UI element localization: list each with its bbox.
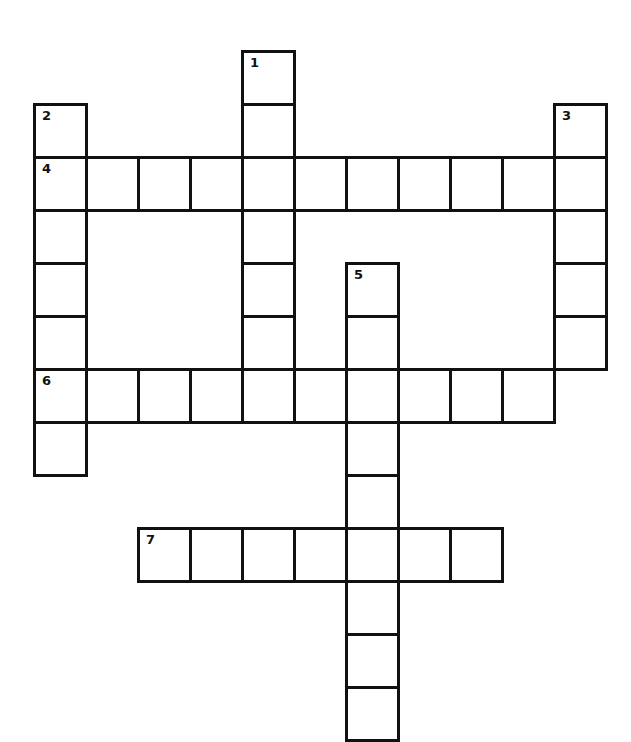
crossword-cell[interactable] bbox=[397, 527, 452, 583]
crossword-cell[interactable] bbox=[553, 262, 608, 318]
crossword-cell[interactable] bbox=[397, 156, 452, 212]
crossword-cell[interactable] bbox=[553, 156, 608, 212]
clue-number: 3 bbox=[562, 109, 571, 122]
crossword-cell[interactable] bbox=[33, 421, 88, 477]
crossword-cell[interactable] bbox=[345, 315, 400, 371]
crossword-cell[interactable] bbox=[397, 368, 452, 424]
crossword-cell[interactable] bbox=[33, 315, 88, 371]
crossword-cell[interactable] bbox=[241, 209, 296, 265]
crossword-cell[interactable] bbox=[85, 156, 140, 212]
crossword-cell[interactable] bbox=[345, 156, 400, 212]
crossword-cell[interactable] bbox=[33, 209, 88, 265]
crossword-cell[interactable] bbox=[449, 527, 504, 583]
crossword-cell[interactable]: 3 bbox=[553, 103, 608, 159]
crossword-cell[interactable] bbox=[85, 368, 140, 424]
crossword-cell[interactable] bbox=[137, 368, 192, 424]
crossword-cell[interactable] bbox=[189, 527, 244, 583]
crossword-cell[interactable] bbox=[553, 209, 608, 265]
crossword-cell[interactable] bbox=[241, 527, 296, 583]
crossword-cell[interactable] bbox=[345, 368, 400, 424]
clue-number: 2 bbox=[42, 109, 51, 122]
crossword-cell[interactable] bbox=[345, 686, 400, 742]
crossword-cell[interactable] bbox=[241, 368, 296, 424]
clue-number: 7 bbox=[146, 533, 155, 546]
crossword-cell[interactable] bbox=[345, 474, 400, 530]
crossword-cell[interactable] bbox=[345, 421, 400, 477]
crossword-cell[interactable] bbox=[241, 315, 296, 371]
crossword-cell[interactable]: 2 bbox=[33, 103, 88, 159]
crossword-cell[interactable]: 6 bbox=[33, 368, 88, 424]
crossword-cell[interactable] bbox=[449, 156, 504, 212]
crossword-cell[interactable]: 4 bbox=[33, 156, 88, 212]
crossword-cell[interactable] bbox=[293, 527, 348, 583]
crossword-cell[interactable] bbox=[137, 156, 192, 212]
crossword-cell[interactable] bbox=[345, 633, 400, 689]
crossword-cell[interactable] bbox=[189, 368, 244, 424]
crossword-cell[interactable] bbox=[241, 103, 296, 159]
crossword-cell[interactable] bbox=[345, 527, 400, 583]
crossword-cell[interactable] bbox=[449, 368, 504, 424]
crossword-cell[interactable]: 1 bbox=[241, 50, 296, 106]
crossword-cell[interactable] bbox=[189, 156, 244, 212]
clue-number: 6 bbox=[42, 374, 51, 387]
clue-number: 1 bbox=[250, 56, 259, 69]
crossword-cell[interactable] bbox=[345, 580, 400, 636]
crossword-cell[interactable] bbox=[553, 315, 608, 371]
crossword-cell[interactable] bbox=[501, 156, 556, 212]
crossword-cell[interactable] bbox=[241, 262, 296, 318]
crossword-cell[interactable] bbox=[33, 262, 88, 318]
crossword-cell[interactable] bbox=[293, 156, 348, 212]
crossword-cell[interactable]: 5 bbox=[345, 262, 400, 318]
clue-number: 4 bbox=[42, 162, 51, 175]
crossword-cell[interactable] bbox=[241, 156, 296, 212]
crossword-cell[interactable] bbox=[293, 368, 348, 424]
crossword-cell[interactable] bbox=[501, 368, 556, 424]
crossword-cell[interactable]: 7 bbox=[137, 527, 192, 583]
clue-number: 5 bbox=[354, 268, 363, 281]
